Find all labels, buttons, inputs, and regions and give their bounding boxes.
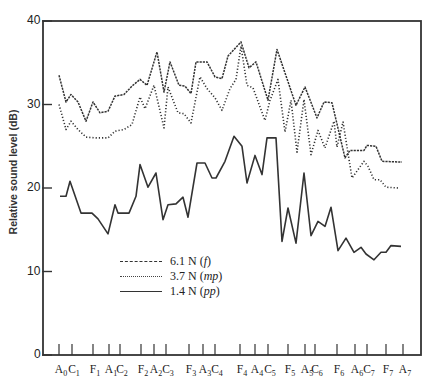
solid-line-swatch-icon bbox=[120, 291, 162, 292]
legend: 6.1 N (f) 3.7 N (mp) 1.4 N (pp) bbox=[120, 254, 222, 299]
legend-item-pp: 1.4 N (pp) bbox=[120, 284, 222, 299]
legend-label: 1.4 N (pp) bbox=[170, 284, 220, 299]
x-axis-ticks bbox=[59, 344, 403, 355]
series-lines bbox=[59, 42, 402, 260]
dotted-line-swatch-icon bbox=[120, 276, 162, 277]
y-tick-label: 40 bbox=[27, 13, 40, 27]
x-tick-label: A0 bbox=[55, 363, 67, 378]
x-tick-label: C6 bbox=[311, 363, 323, 378]
x-tick-label: C1 bbox=[68, 363, 80, 378]
x-tick-label: A4 bbox=[251, 363, 263, 378]
x-tick-label: F5 bbox=[285, 363, 295, 378]
y-tick-label: 20 bbox=[27, 180, 40, 194]
legend-label: 6.1 N (f) bbox=[170, 254, 211, 269]
y-tick-label: 30 bbox=[27, 97, 40, 111]
x-tick-label: A6 bbox=[351, 363, 363, 378]
series-line-pp bbox=[60, 136, 401, 260]
x-tick-label: A7 bbox=[399, 363, 411, 378]
legend-label: 3.7 N (mp) bbox=[170, 269, 222, 284]
x-tick-label: F3 bbox=[186, 363, 196, 378]
series-line-mp bbox=[59, 46, 398, 188]
x-tick-label: C4 bbox=[211, 363, 223, 378]
x-tick-label: A2 bbox=[150, 363, 162, 378]
x-tick-label: C2 bbox=[116, 363, 128, 378]
y-tick-label: 0 bbox=[34, 347, 41, 361]
legend-item-mp: 3.7 N (mp) bbox=[120, 269, 222, 284]
x-tick-label: F7 bbox=[383, 363, 393, 378]
x-tick-label: C7 bbox=[363, 363, 375, 378]
x-tick-label: A3 bbox=[199, 363, 211, 378]
dashed-line-swatch-icon bbox=[120, 261, 162, 262]
x-tick-label: F1 bbox=[90, 363, 100, 378]
plot-frame bbox=[43, 21, 421, 355]
x-tick-label: C3 bbox=[162, 363, 174, 378]
chart-plot bbox=[0, 0, 439, 386]
y-tick-label: 10 bbox=[27, 264, 40, 278]
x-tick-label: C5 bbox=[264, 363, 276, 378]
x-tick-label: F6 bbox=[334, 363, 344, 378]
legend-item-f: 6.1 N (f) bbox=[120, 254, 222, 269]
y-axis-label: Relative sound level (dB) bbox=[7, 72, 23, 272]
x-tick-label: F2 bbox=[138, 363, 148, 378]
x-tick-label: F4 bbox=[237, 363, 247, 378]
